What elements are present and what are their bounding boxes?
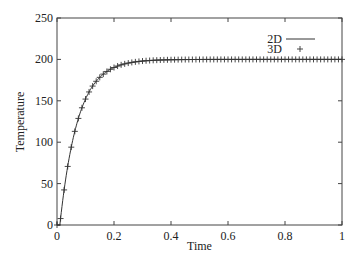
x-tick-label: 0.2	[107, 229, 122, 243]
temperature-chart: 00.20.40.60.81050100150200250 2D 3D Time…	[0, 0, 358, 266]
x-tick-label: 1	[339, 229, 345, 243]
x-tick-label: 0.6	[221, 229, 236, 243]
y-tick-label: 0	[47, 218, 53, 232]
legend: 2D 3D	[267, 32, 315, 56]
y-tick-label: 50	[41, 177, 53, 191]
tick-labels: 00.20.40.60.81050100150200250	[35, 11, 345, 243]
x-axis-label: Time	[187, 239, 212, 253]
x-tick-label: 0.4	[164, 229, 179, 243]
y-tick-label: 200	[35, 52, 53, 66]
legend-label-3d: 3D	[267, 42, 282, 56]
y-axis-label: Temperature	[13, 92, 27, 152]
series-2d-line	[57, 59, 342, 225]
x-tick-label: 0	[54, 229, 60, 243]
x-tick-label: 0.8	[278, 229, 293, 243]
y-tick-label: 150	[35, 94, 53, 108]
series-3d-markers	[54, 56, 345, 228]
y-tick-label: 250	[35, 11, 53, 25]
legend-plus-icon	[297, 46, 303, 52]
y-tick-label: 100	[35, 135, 53, 149]
